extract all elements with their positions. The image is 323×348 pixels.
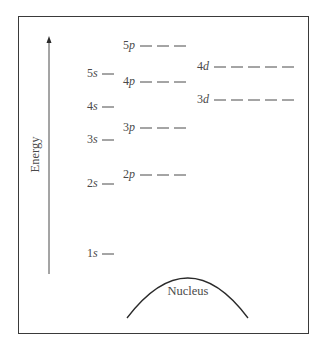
- orbital-label-4s: 4s: [87, 100, 98, 112]
- subshell-letter: s: [93, 66, 98, 80]
- orbital-label-3s: 3s: [87, 133, 98, 145]
- orbital-label-3p: 3p: [123, 121, 135, 133]
- orbital-label-1s: 1s: [87, 247, 98, 259]
- orbital-label-3d: 3d: [197, 93, 209, 105]
- subshell-letter: s: [93, 246, 98, 260]
- orbital-label-5s: 5s: [87, 67, 98, 79]
- orbital-label-4d: 4d: [197, 60, 209, 72]
- orbital-label-5p: 5p: [123, 39, 135, 51]
- subshell-letter: s: [93, 132, 98, 146]
- nucleus-label: Nucleus: [168, 284, 209, 299]
- orbital-energy-diagram: [0, 0, 323, 348]
- subshell-letter: d: [203, 92, 209, 106]
- subshell-letter: p: [129, 167, 135, 181]
- orbital-label-2p: 2p: [123, 168, 135, 180]
- orbital-label-4p: 4p: [123, 75, 135, 87]
- subshell-letter: p: [129, 74, 135, 88]
- orbital-label-2s: 2s: [87, 177, 98, 189]
- subshell-letter: d: [203, 59, 209, 73]
- subshell-letter: s: [93, 176, 98, 190]
- subshell-letter: p: [129, 120, 135, 134]
- energy-axis-arrow-icon: [47, 36, 52, 274]
- energy-axis-label: Energy: [28, 132, 43, 178]
- subshell-letter: s: [93, 99, 98, 113]
- subshell-letter: p: [129, 38, 135, 52]
